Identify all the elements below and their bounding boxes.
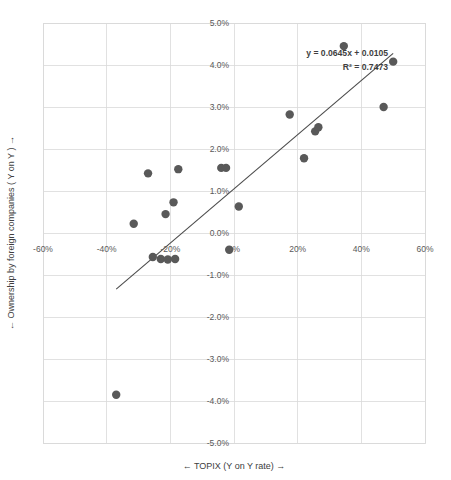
data-point — [300, 154, 308, 162]
x-tick-label: 20% — [289, 244, 306, 254]
data-point — [314, 123, 322, 131]
data-point — [171, 255, 179, 263]
chart-canvas: -60%-40%-20%0%20%40%60% 5.0%4.0%3.0%2.0%… — [0, 0, 451, 480]
x-tick-label: -60% — [33, 244, 53, 254]
scatter-chart: -60%-40%-20%0%20%40%60% 5.0%4.0%3.0%2.0%… — [0, 0, 451, 480]
x-tick-label: 60% — [416, 244, 433, 254]
y-tick-label: -2.0% — [207, 312, 230, 322]
y-tick-label: 4.0% — [210, 60, 230, 70]
x-tick-label: -20% — [160, 244, 180, 254]
data-point — [130, 220, 138, 228]
y-tick-label: 2.0% — [210, 144, 230, 154]
x-tick-label: -40% — [97, 244, 117, 254]
data-point — [235, 202, 243, 210]
y-tick-label: -1.0% — [207, 270, 230, 280]
y-tick-label: -3.0% — [207, 354, 230, 364]
trendline-equation-label: y = 0.0645x + 0.0105 — [306, 48, 388, 58]
y-tick-label: -4.0% — [207, 396, 230, 406]
data-point — [112, 391, 120, 399]
y-tick-label: -5.0% — [207, 438, 230, 448]
y-tick-label: 3.0% — [210, 102, 230, 112]
data-point — [169, 198, 177, 206]
data-point — [379, 103, 387, 111]
y-axis-title: ← Ownership by foreign companies ( Y on … — [6, 136, 16, 330]
data-point — [144, 169, 152, 177]
data-point — [222, 164, 230, 172]
x-axis-title: ← TOPIX (Y on Y rate) → — [183, 461, 286, 471]
data-point — [174, 165, 182, 173]
x-tick-label: 40% — [353, 244, 370, 254]
x-tick-label: 0% — [228, 244, 241, 254]
y-tick-label: 5.0% — [210, 18, 230, 28]
data-point — [164, 255, 172, 263]
data-point — [149, 253, 157, 261]
y-tick-label: 0.0% — [210, 228, 230, 238]
trendline-r2-label: R² = 0.7473 — [343, 62, 388, 72]
y-tick-label: 1.0% — [210, 186, 230, 196]
data-point — [161, 210, 169, 218]
data-point — [389, 57, 397, 65]
data-point — [286, 110, 294, 118]
